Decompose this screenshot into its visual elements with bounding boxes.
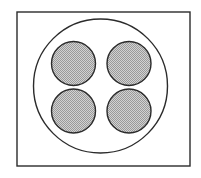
inner-circle-bottom-left bbox=[52, 89, 96, 133]
inner-circle-top-right bbox=[107, 42, 151, 86]
figure-container bbox=[0, 0, 201, 178]
inner-circle-bottom-right bbox=[107, 89, 151, 133]
figure-drawing bbox=[0, 0, 201, 178]
inner-circle-top-left bbox=[52, 42, 96, 86]
large-enclosing-circle bbox=[34, 19, 168, 153]
